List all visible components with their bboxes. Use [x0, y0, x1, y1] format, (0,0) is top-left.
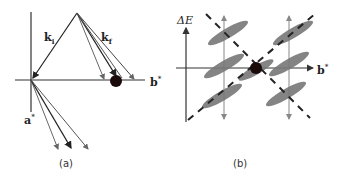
panel-a-scattering-triangle: ki kf b* a* (a)	[0, 0, 170, 185]
bragg-point-dot	[250, 62, 262, 74]
panel-b-graphic	[170, 0, 341, 185]
k-f-vector-3	[77, 13, 134, 79]
k-i-vector	[33, 13, 77, 78]
panel-a-graphic	[0, 0, 170, 185]
delta-e-label: ΔE	[177, 15, 193, 26]
b-star-label: b*	[317, 63, 328, 76]
panel-b-dispersion: ΔE b* (b)	[170, 0, 341, 185]
b-star-label: b*	[150, 75, 161, 88]
panel-b-caption: (b)	[233, 158, 247, 169]
bragg-point-dot	[110, 75, 122, 87]
q-vector-3	[31, 80, 88, 149]
q-vector-1	[31, 80, 58, 149]
q-vector-2	[31, 80, 71, 148]
k-i-label: ki	[44, 32, 54, 45]
panel-a-caption: (a)	[59, 158, 73, 169]
k-f-label: kf	[101, 32, 112, 45]
a-star-label: a*	[24, 113, 35, 126]
